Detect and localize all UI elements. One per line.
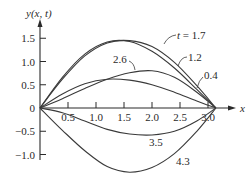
y-tick-label: 0: [30, 102, 36, 114]
x-tick-label: 1.0: [89, 111, 103, 123]
label-t17: t = 1.7: [177, 29, 206, 41]
y-axis-title: y(x, t): [25, 7, 52, 20]
axes: [38, 19, 237, 160]
y-tick-label: 0.5: [21, 79, 35, 91]
x-tick-label: 2.5: [173, 111, 187, 123]
x-axis-arrow-icon: [228, 106, 236, 111]
label-t04: 0.4: [204, 69, 218, 81]
label-t12: 1.2: [188, 51, 202, 63]
leader-t12: [178, 57, 187, 66]
y-axis-arrow-icon: [38, 19, 43, 27]
y-tick-label: 1.5: [21, 32, 35, 44]
label-t26: 2.6: [113, 53, 127, 65]
y-tick-label: 1.0: [21, 56, 35, 68]
plot-svg: 0.51.01.52.02.53.0−1.0−0.500.51.01.5 y(x…: [0, 0, 249, 186]
x-axis-title: x: [239, 102, 245, 114]
curve-0-4: [40, 79, 216, 108]
x-tick-label: 1.5: [117, 111, 131, 123]
chart-container: 0.51.01.52.02.53.0−1.0−0.500.51.01.5 y(x…: [0, 0, 249, 186]
y-tick-label: −0.5: [15, 125, 35, 137]
curve-labels: t = 1.7 1.2 2.6 0.4 3.5 4.3: [113, 29, 218, 167]
label-t43: 4.3: [176, 155, 190, 167]
curve-2-6: [40, 71, 216, 108]
label-t35: 3.5: [149, 136, 163, 148]
leader-t26: [129, 61, 135, 70]
x-tick-label: 2.0: [145, 111, 159, 123]
y-tick-label: −1.0: [15, 149, 35, 161]
leader-t17: [164, 35, 176, 44]
